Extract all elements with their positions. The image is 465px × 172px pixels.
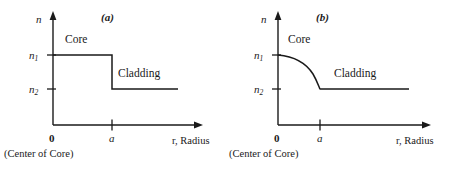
y-tick-label-n2: n2 (254, 84, 263, 95)
origin-note-label: (Center of Core) (229, 149, 298, 160)
y-axis-label: n (36, 14, 42, 25)
figure-container: n (a) n1 n2 Core Cladding 0 a (Center of… (0, 0, 465, 172)
cladding-region-label: Cladding (334, 68, 376, 80)
core-region-label: Core (288, 34, 310, 46)
panel-tag-b: (b) (316, 12, 329, 23)
y-tick-label-n1: n1 (29, 50, 38, 61)
origin-label: 0 (49, 133, 55, 144)
x-axis-label: r, Radius (396, 136, 434, 147)
core-region-label: Core (65, 34, 87, 46)
y-axis (50, 11, 57, 125)
origin-label: 0 (274, 133, 280, 144)
x-axis (53, 122, 203, 129)
origin-note-label: (Center of Core) (4, 149, 73, 160)
step-index-profile-panel: n (a) n1 n2 Core Cladding 0 a (Center of… (0, 0, 232, 172)
cladding-region-label: Cladding (118, 68, 160, 80)
y-axis-label: n (261, 14, 267, 25)
y-tick-label-n1: n1 (254, 50, 263, 61)
x-axis-label: r, Radius (172, 136, 210, 147)
graded-index-profile-panel: n (b) n1 n2 Core Cladding 0 a (Center of… (233, 0, 465, 172)
core-radius-tick-label: a (317, 133, 323, 144)
x-axis (278, 122, 431, 129)
core-radius-tick-label: a (109, 133, 115, 144)
panel-tag-a: (a) (101, 12, 114, 23)
y-axis (275, 11, 282, 125)
y-tick-label-n2: n2 (29, 84, 38, 95)
